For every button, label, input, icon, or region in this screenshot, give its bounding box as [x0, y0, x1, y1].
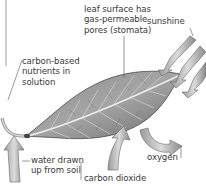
stem-curve [2, 118, 30, 136]
oxygen-label: oxygen [147, 152, 178, 162]
nutrients-label: carbon-based nutrients in solution [22, 56, 80, 87]
leaf-surface-label: leaf surface has gas-permeable pores (st… [84, 4, 151, 35]
photosynthesis-diagram: leaf surface has gas-permeable pores (st… [0, 0, 206, 186]
carbon-dioxide-label: carbon dioxide [84, 173, 146, 183]
water-arrow-icon [4, 136, 24, 182]
water-label: water drawn up from soil [31, 155, 84, 176]
sunshine-label: sunshine [147, 16, 185, 26]
